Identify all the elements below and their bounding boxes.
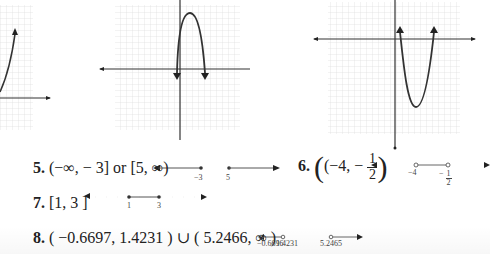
answer-text: (−4, − (324, 157, 363, 174)
answer-number: 5. (33, 159, 45, 176)
tick-label: 3 (157, 201, 161, 210)
number-line-6 (371, 162, 490, 168)
answer-number: 7. (33, 194, 45, 211)
tick-label: 1 (127, 201, 131, 210)
answer-text: [1, 3 ] (49, 194, 88, 211)
graphs-canvas (0, 0, 490, 254)
graph-upward-parabola (313, 0, 476, 150)
page-shadow (0, 226, 490, 254)
graph-partial-left (0, 5, 51, 130)
tick-label: −3 (194, 173, 203, 182)
answer-6: 6. ((−4, − 1 2 ) (298, 152, 387, 182)
number-line-7 (84, 193, 207, 200)
answer-7: 7. [1, 3 ] (33, 195, 88, 211)
number-line-5 (153, 165, 280, 171)
answer-number: 6. (298, 157, 310, 174)
answer-text: (−∞, − 3] or [5, ∞) (49, 159, 169, 176)
fraction: 1 2 (367, 152, 377, 182)
answer-5: 5. (−∞, − 3] or [5, ∞) (33, 160, 169, 176)
graph-downward-parabola (99, 0, 250, 140)
tick-label: −4 (408, 168, 417, 177)
tick-label-fraction: − 12 (439, 169, 452, 187)
tick-label: 5 (226, 173, 230, 182)
